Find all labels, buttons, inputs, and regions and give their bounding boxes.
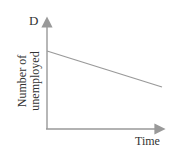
x-axis-label: Time <box>135 134 160 149</box>
demand-line <box>47 51 162 87</box>
y-axis-label-line2: unemployed <box>29 51 42 110</box>
curve-label: D <box>29 13 38 29</box>
y-axis-label: Number of unemployed <box>12 40 46 122</box>
